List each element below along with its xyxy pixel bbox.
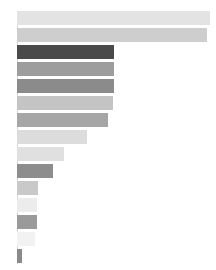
- bar: [17, 79, 114, 93]
- bar: [17, 113, 108, 127]
- bar: [17, 96, 113, 110]
- bar: [17, 62, 114, 76]
- bar: [17, 164, 53, 178]
- bar: [17, 249, 22, 263]
- bar: [17, 215, 37, 229]
- bar: [17, 11, 210, 25]
- bar: [17, 130, 87, 144]
- bar: [17, 147, 64, 161]
- bar: [17, 45, 114, 59]
- bar: [17, 198, 37, 212]
- bar: [17, 232, 35, 246]
- bar: [17, 28, 207, 42]
- bar-chart: [0, 0, 216, 270]
- bar: [17, 181, 38, 195]
- plot-area: [0, 0, 216, 270]
